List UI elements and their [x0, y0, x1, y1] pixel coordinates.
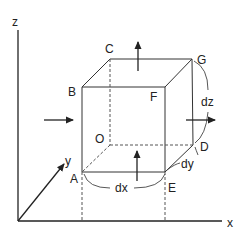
y-axis-arrow	[18, 164, 64, 221]
vertex-label-b: B	[68, 85, 76, 99]
fluid-element-diagram: z x y C G B F O D A E dx dy dz	[0, 0, 247, 241]
x-axis-label: x	[227, 216, 233, 230]
vertex-label-d: D	[200, 140, 209, 154]
dimension-label-dy: dy	[181, 157, 194, 171]
y-axis-label: y	[65, 154, 71, 168]
vertex-label-f: F	[150, 90, 157, 104]
z-axis-label: z	[12, 15, 18, 29]
vertex-label-a: A	[70, 172, 78, 186]
vertex-label-g: G	[197, 53, 206, 67]
vertex-label-e: E	[168, 181, 176, 195]
dimension-label-dx: dx	[115, 181, 128, 195]
vertex-label-c: C	[105, 42, 114, 56]
vertex-label-o: O	[95, 132, 104, 146]
dimension-label-dz: dz	[201, 95, 214, 109]
